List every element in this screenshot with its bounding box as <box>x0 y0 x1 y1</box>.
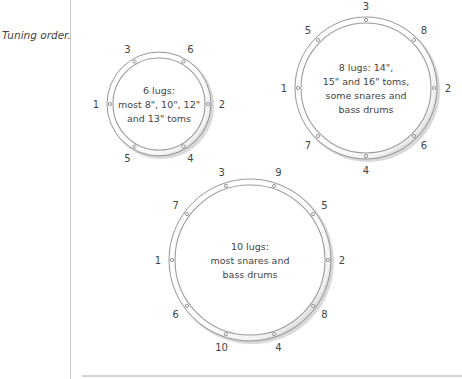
lug-icon <box>170 258 173 261</box>
lug-number: 4 <box>363 165 369 176</box>
lug-icon <box>312 213 315 216</box>
lug-icon <box>316 134 319 137</box>
tuning-order-figure: 1234566 lugs:most 8", 10", 12"and 13" to… <box>0 0 462 379</box>
lug-icon <box>364 154 367 157</box>
lug-number: 5 <box>305 25 311 36</box>
drum-label-line: 10 lugs: <box>231 241 269 252</box>
drum-label-line: most snares and <box>211 255 290 266</box>
drum-label-line: some snares and <box>325 90 406 101</box>
lug-number: 5 <box>321 200 327 211</box>
drum-label-line: 6 lugs: <box>143 85 175 96</box>
drum-10-lug: 1234567891010 lugs:most snares andbass d… <box>155 167 345 353</box>
drum-label-line: bass drums <box>339 104 394 115</box>
lug-number: 7 <box>305 140 311 151</box>
lug-icon <box>296 86 299 89</box>
lug-icon <box>133 60 136 63</box>
drums-group: 1234566 lugs:most 8", 10", 12"and 13" to… <box>93 1 451 353</box>
lug-icon <box>316 38 319 41</box>
drum-head <box>301 23 431 153</box>
lug-icon <box>432 86 435 89</box>
lug-number: 6 <box>187 44 193 55</box>
lug-number: 8 <box>321 309 327 320</box>
lug-number: 5 <box>124 153 130 164</box>
lug-icon <box>108 102 111 105</box>
lug-number: 4 <box>187 153 193 164</box>
lug-number: 10 <box>215 342 228 353</box>
lug-icon <box>185 213 188 216</box>
lug-number: 2 <box>219 99 225 110</box>
lug-number: 1 <box>93 99 99 110</box>
lug-icon <box>364 18 367 21</box>
drum-6-lug: 1234566 lugs:most 8", 10", 12"and 13" to… <box>93 44 225 164</box>
lug-icon <box>273 184 276 187</box>
drum-label-line: bass drums <box>223 269 278 280</box>
lug-icon <box>326 258 329 261</box>
lug-icon <box>185 304 188 307</box>
drum-8-lug: 123456788 lugs: 14",15" and 16" toms,som… <box>281 1 451 176</box>
lug-icon <box>412 134 415 137</box>
drum-label-line: and 13" toms <box>127 113 191 124</box>
lug-number: 8 <box>421 25 427 36</box>
lug-icon <box>182 145 185 148</box>
lug-number: 6 <box>172 309 178 320</box>
lug-icon <box>133 145 136 148</box>
lug-icon <box>412 38 415 41</box>
lug-number: 1 <box>281 83 287 94</box>
lug-icon <box>224 333 227 336</box>
lug-icon <box>206 102 209 105</box>
drum-label-line: most 8", 10", 12" <box>118 99 200 110</box>
drum-label-line: 15" and 16" toms, <box>323 76 410 87</box>
lug-number: 1 <box>155 255 161 266</box>
lug-number: 3 <box>218 167 224 178</box>
lug-icon <box>182 60 185 63</box>
lug-number: 3 <box>363 1 369 12</box>
lug-number: 4 <box>275 342 281 353</box>
lug-number: 3 <box>124 44 130 55</box>
lug-number: 7 <box>172 200 178 211</box>
lug-number: 2 <box>445 83 451 94</box>
lug-number: 9 <box>275 167 281 178</box>
lug-number: 2 <box>339 255 345 266</box>
lug-number: 6 <box>421 140 427 151</box>
lug-icon <box>312 304 315 307</box>
lug-icon <box>273 333 276 336</box>
lug-icon <box>224 184 227 187</box>
drum-label-line: 8 lugs: 14", <box>339 62 393 73</box>
